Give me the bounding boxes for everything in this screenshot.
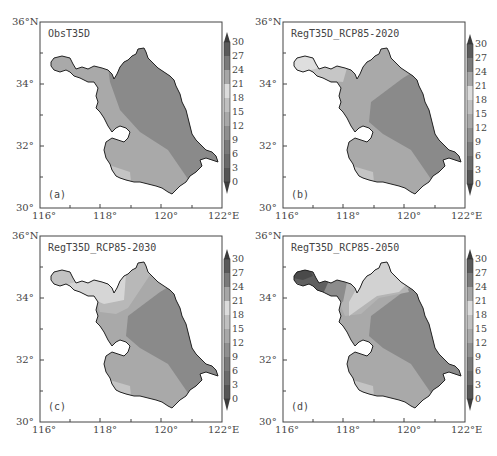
panel-b: RegT35D_RCP85-2020 (b) 36°N 34° 32° 30° … <box>243 0 491 228</box>
y-tick-36: 36°N <box>12 16 38 27</box>
panel-tag: (d) <box>291 401 309 412</box>
y-tick-32: 32° <box>259 140 277 151</box>
x-tick-120: 120° <box>397 424 421 435</box>
x-tick-118: 118° <box>93 424 117 435</box>
x-tick-116: 116° <box>275 424 299 435</box>
x-tick-122: 122°E <box>451 424 482 435</box>
colorbar-b <box>467 34 473 196</box>
y-tick-32: 32° <box>16 140 34 151</box>
x-tick-120: 120° <box>397 210 421 221</box>
x-tick-116: 116° <box>32 210 56 221</box>
y-tick-36: 36°N <box>12 230 38 241</box>
panel-title: RegT35D_RCP85-2030 <box>48 242 156 253</box>
y-tick-36: 36°N <box>255 16 281 27</box>
y-tick-34: 34° <box>16 78 34 89</box>
y-tick-34: 34° <box>259 78 277 89</box>
y-tick-36: 36°N <box>255 230 281 241</box>
y-tick-32: 32° <box>259 354 277 365</box>
colorbar-a <box>224 32 230 194</box>
panel-title: ObsT35D <box>48 28 90 39</box>
map-a <box>0 0 248 228</box>
panel-d: RegT35D_RCP85-2050 (d) 36°N 34° 32° 30° … <box>243 225 491 453</box>
y-tick-32: 32° <box>16 354 34 365</box>
panel-title: RegT35D_RCP85-2020 <box>291 28 399 39</box>
map-d <box>243 225 497 456</box>
panel-title: RegT35D_RCP85-2050 <box>291 242 399 253</box>
x-tick-118: 118° <box>93 210 117 221</box>
x-tick-120: 120° <box>154 210 178 221</box>
x-tick-118: 118° <box>336 424 360 435</box>
x-tick-120: 120° <box>154 424 178 435</box>
colorbar-c <box>224 249 230 411</box>
x-tick-122: 122°E <box>451 210 482 221</box>
x-tick-122: 122°E <box>208 424 239 435</box>
map-c <box>0 225 248 456</box>
x-tick-118: 118° <box>336 210 360 221</box>
x-tick-116: 116° <box>32 424 56 435</box>
x-tick-122: 122°E <box>208 210 239 221</box>
x-tick-116: 116° <box>275 210 299 221</box>
panel-c: RegT35D_RCP85-2030 (c) 36°N 34° 32° 30° … <box>0 225 248 453</box>
y-tick-34: 34° <box>259 292 277 303</box>
y-tick-34: 34° <box>16 292 34 303</box>
panel-tag: (b) <box>291 189 309 200</box>
panel-tag: (a) <box>48 189 66 200</box>
panel-tag: (c) <box>48 401 66 412</box>
colorbar-d <box>467 249 473 411</box>
panel-a: ObsT35D (a) 36°N 34° 32° 30° 116° 118° 1… <box>0 0 248 228</box>
